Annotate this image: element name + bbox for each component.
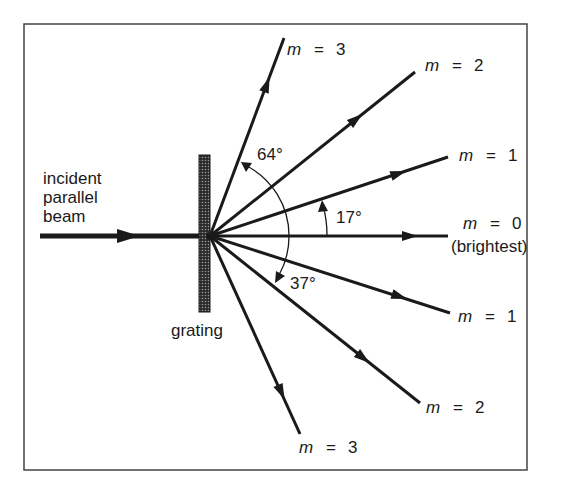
angle-arc-64 xyxy=(245,165,289,236)
angle-64-arrow-icon xyxy=(241,162,252,172)
svg-text:0: 0 xyxy=(512,214,521,233)
grating-focus-point xyxy=(206,232,214,240)
order-label-m1-up: m = 1 xyxy=(459,146,517,165)
order-label-m1-down: m = 1 xyxy=(458,307,516,326)
angle-arc-37 xyxy=(279,236,289,275)
ray-m2-down xyxy=(210,236,420,403)
order-label-m2-up: m = 2 xyxy=(425,56,483,75)
svg-text:=: = xyxy=(452,56,462,75)
ray-m1-down xyxy=(210,236,450,313)
svg-text:2: 2 xyxy=(474,56,483,75)
svg-text:3: 3 xyxy=(336,40,345,59)
svg-text:m: m xyxy=(425,56,439,75)
svg-text:2: 2 xyxy=(475,398,484,417)
angle-37-label: 37° xyxy=(290,274,316,293)
svg-text:m: m xyxy=(287,40,301,59)
svg-text:=: = xyxy=(314,40,324,59)
ray-m3-up-arrow-icon xyxy=(259,75,274,93)
svg-text:=: = xyxy=(486,146,496,165)
svg-text:1: 1 xyxy=(508,146,517,165)
incident-arrow-icon xyxy=(117,229,140,243)
angle-64-label: 64° xyxy=(257,145,283,164)
svg-text:m: m xyxy=(299,438,313,457)
incident-label-line-2: parallel xyxy=(43,188,98,207)
incident-label-line-1: incident xyxy=(43,169,102,188)
angle-17-label: 17° xyxy=(336,208,362,227)
angle-17-arrow-icon xyxy=(318,200,328,212)
svg-text:(brightest): (brightest) xyxy=(451,237,528,256)
ray-m1-up-arrow-icon xyxy=(389,166,407,181)
order-label-m3-up: m = 3 xyxy=(287,40,345,59)
order-label-m3-down: m = 3 xyxy=(299,438,357,457)
svg-text:=: = xyxy=(490,214,500,233)
svg-text:m: m xyxy=(458,307,472,326)
svg-text:=: = xyxy=(485,307,495,326)
order-label-m2-down: m = 2 xyxy=(426,398,484,417)
incident-label-line-3: beam xyxy=(43,207,86,226)
svg-text:=: = xyxy=(453,398,463,417)
ray-m0-arrow-icon xyxy=(402,231,418,241)
ray-m3-down-arrow-icon xyxy=(273,383,289,402)
svg-text:m: m xyxy=(426,398,440,417)
grating-label: grating xyxy=(171,321,223,340)
ray-m1-down-arrow-icon xyxy=(390,289,408,303)
svg-text:1: 1 xyxy=(507,307,516,326)
diffraction-grating-diagram: 64° 17° 37° incident parallel beam grati… xyxy=(0,0,565,493)
svg-text:=: = xyxy=(326,438,336,457)
diffracted-rays xyxy=(210,38,450,434)
svg-text:3: 3 xyxy=(348,438,357,457)
svg-text:m: m xyxy=(459,146,473,165)
svg-text:m: m xyxy=(463,214,477,233)
ray-m3-down xyxy=(210,236,300,434)
order-label-m0: m = 0 (brightest) xyxy=(451,214,528,256)
